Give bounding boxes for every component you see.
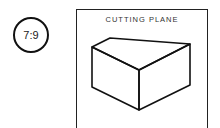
right-face <box>139 44 190 110</box>
left-face <box>92 47 139 110</box>
isometric-block-drawing <box>0 0 220 128</box>
